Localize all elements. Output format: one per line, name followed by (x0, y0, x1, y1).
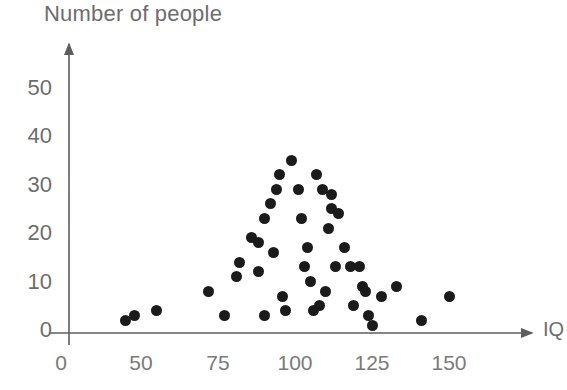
scatter-point (305, 276, 316, 287)
scatter-point (416, 315, 427, 326)
scatter-point (151, 305, 162, 316)
scatter-point (271, 184, 282, 195)
x-tick-label: 0 (55, 352, 67, 373)
x-tick-label: 150 (431, 352, 466, 373)
scatter-point (323, 223, 334, 234)
y-tick-label: 30 (8, 174, 52, 196)
chart-axes (0, 0, 567, 390)
scatter-point (296, 213, 307, 224)
scatter-point (203, 286, 214, 297)
scatter-point (259, 310, 270, 321)
scatter-point (376, 291, 387, 302)
x-tick-label: 50 (129, 352, 152, 373)
y-tick-label: 0 (8, 319, 52, 341)
scatter-point (293, 184, 304, 195)
scatter-point (302, 242, 313, 253)
scatter-point (268, 247, 279, 258)
scatter-point (444, 291, 455, 302)
scatter-point (333, 208, 344, 219)
scatter-point (234, 257, 245, 268)
scatter-point (253, 237, 264, 248)
y-axis-title: Number of people (44, 1, 222, 27)
iq-distribution-chart: Number of people IQ 01020304050 05075100… (0, 0, 567, 390)
scatter-point (259, 213, 270, 224)
scatter-point (391, 281, 402, 292)
scatter-point (219, 310, 230, 321)
scatter-point (330, 261, 341, 272)
scatter-point (360, 286, 371, 297)
x-tick-label: 75 (206, 352, 229, 373)
y-tick-label: 50 (8, 77, 52, 99)
scatter-point (367, 320, 378, 331)
y-tick-label: 10 (8, 271, 52, 293)
x-tick-label: 125 (354, 352, 389, 373)
x-axis-title: IQ (543, 318, 564, 341)
scatter-point (129, 310, 140, 321)
x-tick-label: 100 (277, 352, 312, 373)
scatter-point (320, 286, 331, 297)
scatter-point (339, 242, 350, 253)
y-tick-label: 40 (8, 125, 52, 147)
y-tick-label: 20 (8, 222, 52, 244)
scatter-point (277, 291, 288, 302)
scatter-point (253, 266, 264, 277)
